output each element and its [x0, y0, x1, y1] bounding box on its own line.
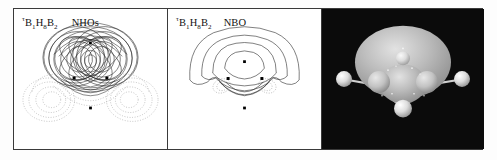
- label-sub-2: 2: [208, 23, 212, 31]
- atom-highlight-top: [396, 51, 410, 65]
- label-b1: B: [179, 17, 186, 28]
- figure-frame: τB1H8B2NHOs: [13, 8, 483, 150]
- label-b1: B: [25, 17, 32, 28]
- label-b2: B: [47, 17, 54, 28]
- nucleus-b2: [105, 77, 108, 80]
- label-sub-2: 2: [54, 23, 58, 31]
- panel-nho: τB1H8B2NHOs: [14, 9, 168, 149]
- atom-h8-bridging: [394, 100, 412, 118]
- panel-nbo-label: τB1H8B2NBO: [176, 15, 246, 31]
- atom-h-terminal-left: [336, 71, 352, 87]
- nucleus-b2: [260, 77, 263, 80]
- panel-isosurface: [322, 9, 484, 149]
- panel-nho-label: τB1H8B2NHOs: [22, 15, 99, 31]
- label-b2: B: [201, 17, 208, 28]
- orbital-name-nhos: NHOs: [72, 17, 99, 28]
- nucleus-b1: [73, 77, 76, 80]
- atom-b1: [368, 71, 390, 93]
- nbo-nuclei: [227, 60, 264, 109]
- nucleus-center-marker: [243, 60, 246, 63]
- panel-nbo: τB1H8B2NBO: [168, 9, 322, 149]
- nucleus-h8: [89, 107, 92, 110]
- atom-b2: [416, 71, 438, 93]
- atom-h-terminal-right: [454, 71, 470, 87]
- nucleus-h8: [243, 107, 246, 110]
- isosurface-rendering: [322, 9, 484, 149]
- figure-container: τB1H8B2NHOs: [0, 0, 497, 160]
- orbital-name-nbo: NBO: [224, 17, 246, 28]
- nho-positive-contours: [37, 21, 143, 96]
- nucleus-b1: [227, 77, 230, 80]
- nucleus-center-marker: [89, 42, 92, 45]
